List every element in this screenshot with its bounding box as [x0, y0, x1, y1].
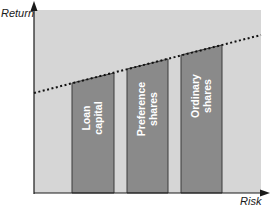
y-axis-label: Return — [1, 7, 34, 19]
bar-label-ordinary-shares: Ordinary shares — [189, 61, 215, 131]
bar-label-loan-capital: Loan capital — [80, 88, 106, 148]
x-axis-label: Risk — [240, 195, 261, 207]
bar-label-line1: Preference — [135, 73, 147, 145]
bar-label-line2: shares — [201, 61, 213, 131]
bar-label-line1: Ordinary — [189, 61, 201, 131]
bar-label-line2: shares — [147, 73, 159, 145]
bar-label-line2: capital — [92, 88, 104, 148]
bar-label-preference-shares: Preference shares — [135, 73, 161, 145]
bar-label-line1: Loan — [80, 88, 92, 148]
x-axis-arrow-icon — [260, 190, 270, 197]
